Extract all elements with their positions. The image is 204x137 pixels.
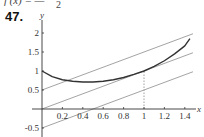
x-tick-label: 0.6 xyxy=(98,111,110,121)
x-tick-label: 0.4 xyxy=(77,111,89,121)
y-tick-label: 0.5 xyxy=(28,85,40,95)
x-tick-label: 1 xyxy=(142,111,147,121)
x-tick-label: 0.8 xyxy=(118,111,130,121)
x-tick-label: 1.2 xyxy=(159,111,170,121)
tangent-line xyxy=(42,34,193,90)
chart: x y 0.20.40.60.811.21.4-0.50.511.52 xyxy=(0,0,204,137)
y-tick-label: 1.5 xyxy=(28,47,40,57)
function-curve xyxy=(42,39,190,82)
x-tick-label: 1.4 xyxy=(179,111,191,121)
y-tick-label: 2 xyxy=(35,28,40,38)
y-tick-label: -0.5 xyxy=(25,123,40,133)
tangent-line xyxy=(42,53,193,109)
y-tick-label: 1 xyxy=(35,66,40,76)
y-axis-label: y xyxy=(39,10,44,20)
x-tick-label: 0.2 xyxy=(57,111,68,121)
x-axis-label: x xyxy=(196,104,201,114)
